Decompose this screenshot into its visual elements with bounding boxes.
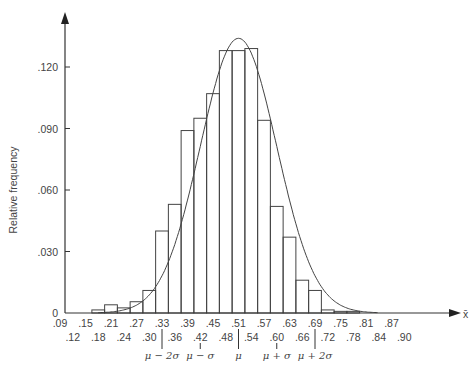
x-tick-label: .33 [155, 317, 170, 329]
sigma-marker-label: μ − σ [186, 350, 215, 361]
x-tick-label: .21 [104, 317, 119, 329]
x-tick-label: .30 [142, 331, 157, 343]
histogram-bar [181, 131, 194, 313]
x-tick-label: .42 [193, 331, 208, 343]
histogram-bar [232, 51, 245, 313]
x-tick-label: .84 [371, 331, 386, 343]
histogram-bar [207, 94, 220, 313]
sigma-marker-label: μ + 2σ [298, 350, 334, 361]
x-tick-label: .39 [180, 317, 195, 329]
histogram-bar [245, 49, 258, 313]
x-tick-label: .54 [244, 331, 259, 343]
histogram-bar [219, 51, 232, 313]
x-tick-label: .75 [333, 317, 348, 329]
x-tick-label: .66 [295, 331, 310, 343]
x-tick-label: .90 [397, 331, 412, 343]
x-tick-label: .78 [346, 331, 361, 343]
x-tick-label: .72 [320, 331, 335, 343]
histogram-bar [258, 120, 271, 313]
x-tick-label: .15 [78, 317, 93, 329]
x-tick-label: .12 [65, 331, 80, 343]
x-tick-label: .69 [308, 317, 323, 329]
x-tick-label: .81 [359, 317, 374, 329]
x-tick-label: .18 [91, 331, 106, 343]
y-tick-label: .060 [38, 184, 59, 196]
x-tick-label: .27 [129, 317, 144, 329]
histogram-bar [156, 231, 169, 313]
histogram-bar [309, 290, 322, 313]
sigma-marker-label: μ − 2σ [145, 350, 181, 361]
x-tick-label: .51 [231, 317, 246, 329]
x-tick-label: .09 [53, 317, 68, 329]
x-tick-label: .36 [167, 331, 182, 343]
x-tick-label: .87 [384, 317, 399, 329]
sigma-marker-label: μ + σ [263, 350, 292, 361]
x-tick-label: .57 [257, 317, 272, 329]
histogram-bar [296, 280, 309, 313]
histogram-bar [283, 237, 296, 313]
histogram-bars [92, 49, 360, 313]
y-tick-label: .030 [38, 246, 59, 258]
y-tick-label: .120 [38, 61, 59, 73]
y-tick-label: .090 [38, 123, 59, 135]
histogram-bar [168, 204, 181, 313]
y-axis-arrow-icon [61, 12, 69, 24]
x-axis-arrow-icon [449, 309, 461, 317]
x-axis-title: x̄ [463, 308, 469, 320]
x-ticks: .09.15.21.27.33.39.45.51.57.63.69.75.81.… [53, 317, 412, 343]
sigma-marker-label: μ [235, 350, 242, 361]
histogram-bar [143, 290, 156, 313]
normal-curve [98, 38, 377, 312]
x-tick-label: .63 [282, 317, 297, 329]
x-tick-label: .24 [116, 331, 131, 343]
histogram-chart: x̄ 0.030.060.090.120 .09.15.21.27.33.39.… [0, 0, 474, 379]
x-tick-label: .60 [269, 331, 284, 343]
x-tick-label: .48 [218, 331, 233, 343]
histogram-bar [270, 206, 283, 313]
x-tick-label: .45 [206, 317, 221, 329]
y-axis-title: Relative frequency [7, 146, 19, 234]
